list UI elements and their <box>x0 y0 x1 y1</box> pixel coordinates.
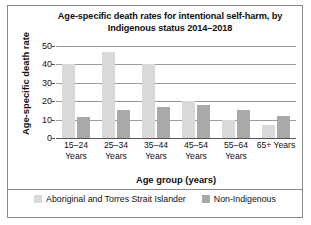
legend-item-non-indigenous: Non-Indigenous <box>202 194 276 204</box>
bar-group <box>96 46 136 138</box>
x-axis-tick-label: 45–54 Years <box>176 140 216 161</box>
bar[interactable] <box>62 64 75 138</box>
bars-layer <box>56 46 296 138</box>
legend-swatch-icon <box>202 195 210 203</box>
legend-divider <box>8 189 302 190</box>
chart-frame: Age-specific death rates for intentional… <box>7 5 303 218</box>
bar[interactable] <box>277 116 290 138</box>
y-axis-tick-mark <box>51 120 55 121</box>
x-axis-tick-label: 65+ Years <box>256 140 296 161</box>
gridline: 0 <box>56 138 296 139</box>
bar[interactable] <box>117 110 130 138</box>
legend-label: Aboriginal and Torres Strait Islander <box>46 194 186 204</box>
x-axis-tick-label: 55–64 Years <box>216 140 256 161</box>
x-axis-tick-label: 35–44 Years <box>136 140 176 161</box>
x-axis-tick-label: 15–24 Years <box>56 140 96 161</box>
bar[interactable] <box>182 101 195 138</box>
legend-label: Non-Indigenous <box>214 194 276 204</box>
bar-group <box>56 46 96 138</box>
bar-group <box>176 46 216 138</box>
bar[interactable] <box>197 105 210 138</box>
bar[interactable] <box>157 107 170 138</box>
bar-group <box>216 46 256 138</box>
chart-legend: Aboriginal and Torres Strait Islander No… <box>8 194 302 204</box>
x-axis-title: Age group (years) <box>56 174 296 185</box>
y-axis-tick-mark <box>51 101 55 102</box>
chart-title: Age-specific death rates for intentional… <box>50 11 290 34</box>
bar[interactable] <box>237 110 250 138</box>
plot-area: 50403020100 <box>56 46 296 138</box>
x-axis-tick-label: 25–34 Years <box>96 140 136 161</box>
y-axis-tick-mark <box>51 83 55 84</box>
y-axis-tick-mark <box>51 64 55 65</box>
y-axis-tick-mark <box>51 138 55 139</box>
bar[interactable] <box>77 117 90 138</box>
bar[interactable] <box>222 120 235 138</box>
legend-item-aboriginal-and-torres-strait-islander: Aboriginal and Torres Strait Islander <box>34 194 186 204</box>
bar[interactable] <box>142 64 155 138</box>
bar[interactable] <box>102 52 115 138</box>
y-axis-title: Age-specific death rate <box>20 29 31 139</box>
bar-group <box>256 46 296 138</box>
legend-swatch-icon <box>34 195 42 203</box>
y-axis-tick-mark <box>51 46 55 47</box>
bar[interactable] <box>262 125 275 138</box>
bar-group <box>136 46 176 138</box>
x-axis-tick-labels: 15–24 Years25–34 Years35–44 Years45–54 Y… <box>56 140 296 161</box>
